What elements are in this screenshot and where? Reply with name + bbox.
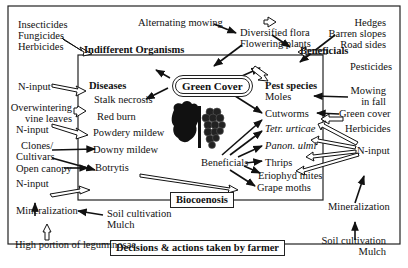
diagram-canvas: Decisions & actions taken by farmer Bioc… — [0, 0, 408, 268]
disease-downy-mildew: Downy mildew — [93, 144, 158, 155]
label-barren-slopes: Barren slopes — [316, 28, 386, 39]
label-n-input-right: N-input — [357, 145, 390, 156]
disease-stalk-necrosis: Stalk necrosis — [94, 94, 153, 105]
label-soil-cultivation-left: Soil cultivation — [107, 208, 171, 219]
disease-botrytis: Botrytis — [95, 162, 129, 173]
label-herbicides: Herbicides — [18, 41, 63, 52]
label-leguminosae: High portion of leguminosae — [15, 239, 136, 250]
label-diversified-flora: Diversified flora — [240, 27, 310, 38]
label-beneficials-center: Beneficials — [201, 157, 248, 168]
label-hedges: Hedges — [330, 17, 386, 28]
pest-cutworms: Cutworms — [265, 108, 309, 119]
label-alternating-mowing: Alternating mowing — [138, 17, 223, 28]
pest-grape-moths: Grape moths — [257, 182, 311, 193]
label-soil-cultivation-right: Soil cultivation — [310, 235, 386, 246]
disease-powdery-mildew: Powdery mildew — [93, 127, 164, 138]
label-mineralization-left: Mineralization — [16, 205, 78, 216]
pest-eriophyd-mites: Eriophyd mites — [258, 170, 322, 181]
label-in-fall: in fall — [330, 96, 386, 107]
label-green-cover-right: Green cover — [339, 108, 391, 119]
pest-panon-ulmi: Panon. ulmi — [265, 140, 316, 151]
label-pesticides: Pesticides — [350, 61, 392, 72]
biocoenosis-label: Biocoenosis — [170, 192, 234, 208]
label-n-input-3: N-input — [16, 178, 49, 189]
label-flowering-plants: Flowering plants — [240, 38, 311, 49]
green-cover-node: Green Cover — [172, 75, 253, 97]
heading-pest-species: Pest species — [265, 80, 317, 91]
label-insecticides: Insecticides — [18, 19, 68, 30]
label-herbicides-right: Herbicides — [345, 123, 390, 134]
disease-red-burn: Red burn — [97, 111, 136, 122]
pest-thrips: Thrips — [265, 157, 292, 168]
label-vine-leaves: vine leaves — [10, 113, 72, 124]
pest-moles: Moles — [265, 91, 291, 102]
label-mowing: Mowing — [330, 85, 386, 96]
label-mineralization-right: Mineralization — [328, 201, 390, 212]
label-n-input-1: N-input — [18, 81, 51, 92]
decisions-label: Decisions & actions taken by farmer — [110, 240, 285, 256]
pest-tetr-urticae: Tetr. urticae — [265, 123, 315, 134]
grapevine-icon — [170, 100, 230, 152]
green-cover-title: Green Cover — [175, 78, 250, 94]
label-mulch-right: Mulch — [330, 246, 386, 257]
label-road-sides: Road sides — [316, 39, 386, 50]
heading-diseases: Diseases — [89, 80, 126, 91]
label-fungicides: Fungicides — [18, 30, 64, 41]
label-open-canopy: Open canopy — [16, 163, 72, 174]
label-cultivars: Cultivars — [16, 151, 55, 162]
label-clones: Clones/ — [21, 140, 53, 151]
heading-indifferent-organisms: Indifferent Organisms — [84, 44, 184, 55]
label-n-input-2: N-input — [16, 124, 49, 135]
label-overwintering: Overwintering — [10, 102, 72, 113]
label-mulch-left: Mulch — [107, 219, 134, 230]
